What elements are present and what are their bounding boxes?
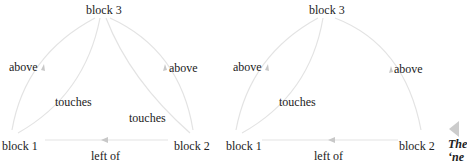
edge-label-above: above <box>169 62 198 74</box>
edge-label-above: above <box>233 61 262 73</box>
arrow-icon <box>41 64 45 71</box>
edge-b1-b3-above <box>12 18 95 130</box>
node-block-2: block 2 <box>174 140 210 152</box>
edge-b1-b3-above <box>236 18 318 130</box>
edge-label-touches: touches <box>129 112 166 124</box>
arrow-icon <box>101 137 108 143</box>
edge-label-left-of: left of <box>91 150 120 162</box>
edge-label-above: above <box>394 63 423 75</box>
edge-b1-b3-touches <box>242 18 323 133</box>
arrow-icon <box>389 66 393 73</box>
edge-label-above: above <box>9 61 38 73</box>
arrow-icon <box>328 137 335 143</box>
caption-pointer-icon <box>449 121 459 137</box>
node-block-1: block 1 <box>2 140 38 152</box>
caption-line-2: ‘ne <box>448 151 464 164</box>
arrow-icon <box>163 64 167 71</box>
node-block-2: block 2 <box>399 140 435 152</box>
edge-label-left-of: left of <box>314 150 343 162</box>
node-block-3: block 3 <box>86 4 122 16</box>
node-block-1: block 1 <box>226 140 262 152</box>
edge-label-touches: touches <box>279 96 316 108</box>
arrow-icon <box>265 64 269 71</box>
edge-b1-b3-touches <box>18 18 100 133</box>
edge-label-touches: touches <box>55 96 92 108</box>
node-block-3: block 3 <box>309 4 345 16</box>
